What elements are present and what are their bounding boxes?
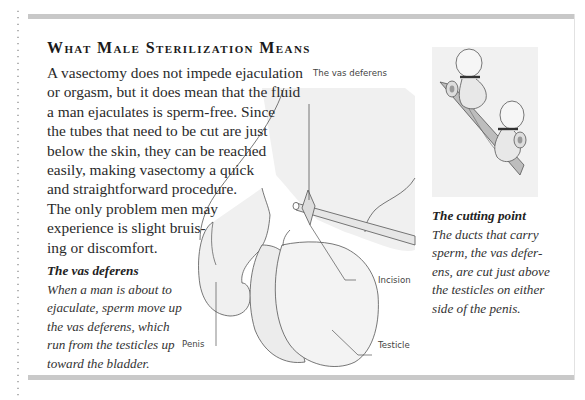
label-incision: Incision [378, 275, 411, 285]
body-line: the tubes that need to be cut are just [47, 121, 287, 140]
body-line: a man ejaculates is sperm-free. Since [47, 102, 287, 121]
vas-deferens-caption: The vas deferens When a man is about to … [47, 262, 182, 374]
body-line: A vasectomy does not impede ejaculation [47, 63, 287, 82]
caption-line: the testicles on either [432, 281, 550, 300]
caption-line: When a man is about to [47, 281, 182, 300]
caption-line: ens, are cut just above [432, 263, 550, 282]
article-body: A vasectomy does not impede ejaculation … [47, 63, 287, 257]
caption-line: side of the penis. [432, 300, 550, 319]
body-line: or orgasm, but it does mean that the flu… [47, 82, 287, 101]
body-line: below the skin, they can be reached [47, 141, 287, 160]
caption-heading: The cutting point [432, 207, 550, 226]
caption-line: sperm, the vas defer- [432, 244, 550, 263]
body-line: ing or discomfort. [47, 238, 287, 257]
label-testicle: Testicle [378, 340, 410, 350]
label-penis: Penis [182, 339, 204, 349]
caption-line: toward the bladder. [47, 355, 182, 374]
caption-line: run from the testicles up [47, 336, 182, 355]
label-vas-deferens: The vas deferens [313, 68, 387, 78]
body-line: The only problem men may [47, 199, 287, 218]
caption-heading: The vas deferens [47, 262, 182, 281]
tied-vas-deferens-icon [432, 47, 538, 197]
body-line: experience is slight bruis- [47, 218, 287, 237]
cutting-point-caption: The cutting point The ducts that carry s… [432, 207, 550, 319]
body-line: and straightforward procedure. [47, 179, 287, 198]
caption-line: ejaculate, sperm move up [47, 299, 182, 318]
article-title: What Male Sterilization Means [47, 39, 311, 57]
caption-line: The ducts that carry [432, 226, 550, 245]
body-line: easily, making vasectomy a quick [47, 160, 287, 179]
cutting-point-illustration [432, 47, 538, 197]
caption-line: the vas deferens, which [47, 318, 182, 337]
